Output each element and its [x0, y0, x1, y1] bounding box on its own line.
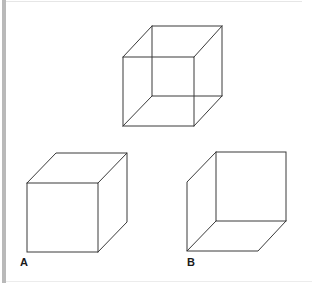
- cube-a-label: A: [20, 257, 28, 268]
- cube-figure: [0, 0, 312, 283]
- necker-edge: [194, 26, 222, 57]
- cube-a-front-face: [27, 183, 98, 252]
- cube-b-label: B: [187, 257, 195, 268]
- necker-edge: [194, 96, 222, 126]
- cube-b: [187, 152, 286, 251]
- necker-edge: [123, 26, 152, 57]
- cube-b-left-face: [187, 152, 216, 251]
- figure-frame: A B: [0, 0, 312, 283]
- cube-a-top-face: [27, 153, 127, 183]
- necker-back-face: [152, 26, 222, 96]
- necker-cube: [123, 26, 222, 126]
- cube-b-front-face: [216, 152, 286, 221]
- cube-a: [27, 153, 127, 252]
- necker-edge: [123, 96, 152, 126]
